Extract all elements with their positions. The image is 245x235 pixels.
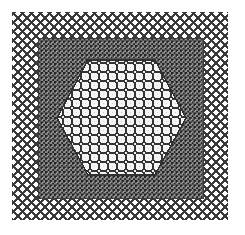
mesh-diagram-svg bbox=[0, 0, 245, 235]
mesh-figure: Nested mesh refinement diagram bbox=[0, 0, 245, 235]
